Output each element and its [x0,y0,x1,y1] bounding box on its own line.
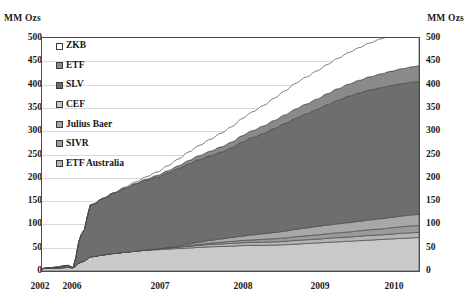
x-tick-2009: 2009 [311,281,330,291]
y-tick-left-200: 200 [28,173,42,183]
x-tick-2008: 2008 [234,281,253,291]
legend-item-etf[interactable]: ETF [56,61,124,71]
y-tick-right-100: 100 [426,219,440,229]
y-tick-left-250: 250 [28,150,42,160]
y-tick-right-350: 350 [426,103,440,113]
y-tick-right-400: 400 [426,80,440,90]
x-tick-2006: 2006 [63,281,82,291]
legend-item-zkb[interactable]: ZKB [56,41,124,51]
y-tick-left-500: 500 [28,33,42,43]
y-tick-left-100: 100 [28,219,42,229]
etf-swatch [56,62,63,69]
y-tick-right-150: 150 [426,196,440,206]
y-tick-left-150: 150 [28,196,42,206]
legend-item-sivr[interactable]: SIVR [56,139,124,149]
julius-baer-swatch [56,121,63,128]
x-tick-2007: 2007 [151,281,170,291]
sivr-swatch [56,140,63,147]
y-tick-left-450: 450 [28,56,42,66]
legend-label: ETF Australia [66,159,124,169]
legend-item-slv[interactable]: SLV [56,80,124,90]
y-tick-right-250: 250 [426,150,440,160]
cef-swatch [56,101,63,108]
legend-item-cef[interactable]: CEF [56,100,124,110]
legend-item-etf-australia[interactable]: ETF Australia [56,159,124,169]
zkb-swatch [56,43,63,50]
legend-label: Julius Baer [66,120,112,130]
legend-label: ZKB [66,41,86,51]
legend-item-julius-baer[interactable]: Julius Baer [56,119,124,129]
legend-label: CEF [66,100,85,110]
y-tick-left-300: 300 [28,126,42,136]
etf-australia-swatch [56,160,63,167]
legend-label: SLV [66,80,84,90]
legend: ZKBETFSLVCEFJulius BaerSIVRETF Australia [56,41,124,169]
cropped-title-ghost [60,0,62,3]
legend-label: ETF [66,61,84,71]
y-tick-right-500: 500 [426,33,440,43]
x-tick-2002: 2002 [31,281,50,291]
cropped-title-strip [0,0,468,6]
y-tick-right-300: 300 [426,126,440,136]
x-tick-2010: 2010 [385,281,404,291]
silver-etf-holdings-area-chart: MM Ozs MM Ozs 50045040035030025020015010… [0,0,468,303]
slv-swatch [56,82,63,89]
legend-label: SIVR [66,139,89,149]
y-axis-right-unit-label: MM Ozs [427,13,464,23]
y-tick-right-0: 0 [426,266,431,276]
y-tick-right-450: 450 [426,56,440,66]
y-axis-left-unit-label: MM Ozs [4,13,41,23]
y-tick-left-400: 400 [28,80,42,90]
y-tick-left-350: 350 [28,103,42,113]
y-tick-right-50: 50 [426,243,436,253]
y-tick-right-200: 200 [426,173,440,183]
